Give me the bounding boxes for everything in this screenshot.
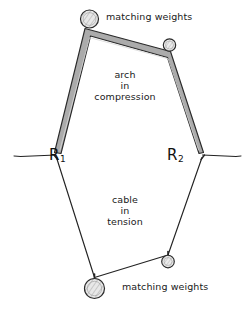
weight-circle — [163, 39, 175, 51]
label-reaction-r2: R2 — [167, 147, 183, 165]
label-arch-line-3: compression — [86, 91, 164, 102]
label-cable-line-2: in — [86, 205, 164, 216]
weight-top-right-icon — [163, 39, 175, 51]
support-left-line-extension — [14, 156, 21, 157]
weight-top-left-icon — [81, 10, 99, 28]
support-right-line — [203, 155, 237, 157]
support-right-line-extension — [236, 156, 241, 157]
weight-circle — [162, 255, 175, 268]
label-reaction-r1-letter: R — [49, 146, 60, 164]
weight-bottom-right-icon — [162, 255, 175, 268]
weight-bottom-left-icon — [85, 279, 105, 299]
label-arch-in-compression: arch in compression — [86, 69, 164, 103]
label-matching-weights-bottom: matching weights — [122, 281, 208, 292]
label-cable-in-tension: cable in tension — [86, 194, 164, 228]
arch-cable-diagram: matching weights arch in compression cab… — [0, 0, 244, 309]
label-arch-line-1: arch — [86, 69, 164, 80]
label-cable-line-3: tension — [86, 216, 164, 227]
label-reaction-r2-letter: R — [167, 146, 178, 164]
support-right — [203, 155, 242, 157]
label-cable-line-1: cable — [86, 194, 164, 205]
label-arch-line-2: in — [86, 80, 164, 91]
label-reaction-r1-subscript: 1 — [60, 154, 66, 164]
label-reaction-r1: R1 — [49, 147, 65, 165]
label-matching-weights-top: matching weights — [106, 11, 192, 22]
diagram-canvas — [0, 0, 244, 309]
label-reaction-r2-subscript: 2 — [178, 154, 184, 164]
